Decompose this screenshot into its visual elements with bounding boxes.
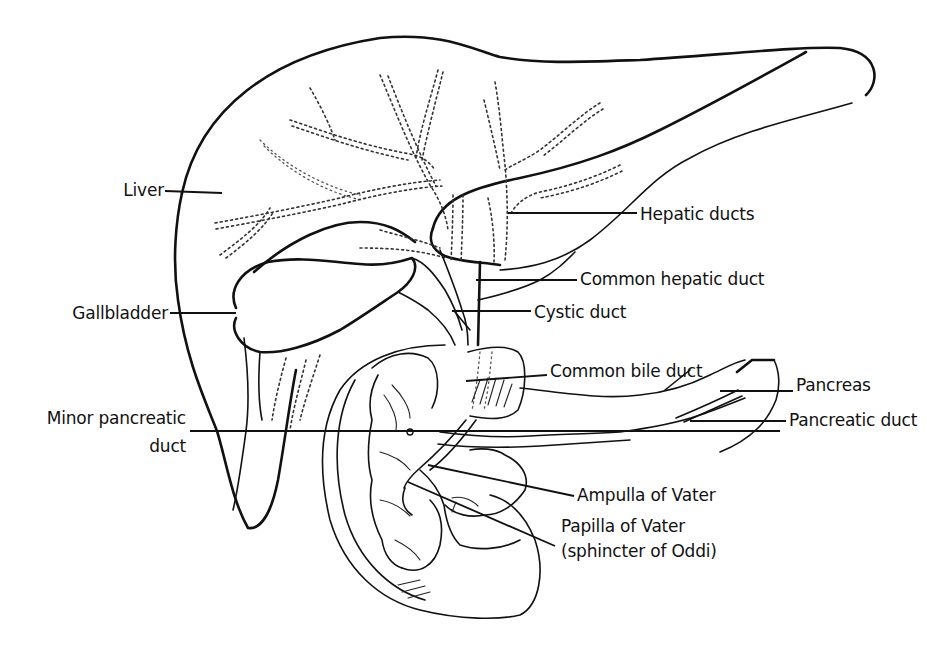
bile-ducts xyxy=(440,250,575,345)
label-pancreatic-duct: Pancreatic duct xyxy=(789,410,918,430)
label-papilla-of-vater: Papilla of Vater xyxy=(561,516,685,536)
label-gallbladder: Gallbladder xyxy=(72,303,168,323)
label-common-hepatic-duct: Common hepatic duct xyxy=(580,269,765,289)
leader-line-ampulla-of-vater xyxy=(428,465,574,496)
leader-line-common-bile-duct xyxy=(466,375,547,381)
leader-line-liver xyxy=(165,191,222,193)
label-cystic-duct: Cystic duct xyxy=(534,302,627,322)
label-papilla-of-vater-line2: (sphincter of Oddi) xyxy=(561,541,717,561)
label-common-bile-duct: Common bile duct xyxy=(550,361,703,381)
label-ampulla-of-vater: Ampulla of Vater xyxy=(577,485,716,505)
labels: Liver Gallbladder Minor pancreatic duct … xyxy=(47,180,918,561)
liver-illustration xyxy=(175,37,874,528)
label-hepatic-ducts: Hepatic ducts xyxy=(640,204,755,224)
anatomy-diagram: Liver Gallbladder Minor pancreatic duct … xyxy=(0,0,950,646)
label-minor-pancreatic-duct: Minor pancreatic xyxy=(47,408,186,428)
label-pancreas: Pancreas xyxy=(796,375,871,395)
leader-line-papilla-of-vater xyxy=(408,482,555,546)
label-liver: Liver xyxy=(123,180,164,200)
label-minor-pancreatic-duct-line2: duct xyxy=(149,436,186,456)
